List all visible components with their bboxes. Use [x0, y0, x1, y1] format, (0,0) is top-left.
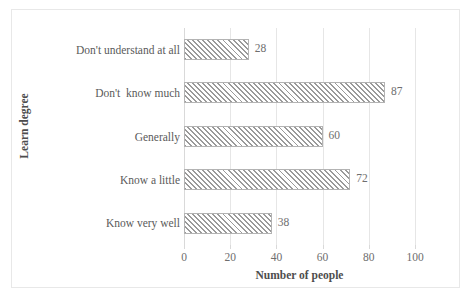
bar-row: 72	[184, 158, 415, 201]
x-axis-tick	[415, 245, 416, 249]
x-tick-label: 20	[224, 250, 236, 264]
chart-frame: 3872608728 Know very wellKnow a littleGe…	[11, 9, 460, 288]
category-axis-labels: Know very wellKnow a littleGenerallyDon'…	[16, 28, 180, 245]
x-axis-tick-labels: 020406080100	[12, 250, 461, 266]
bar-value-label: 60	[329, 128, 341, 142]
bar[interactable]	[184, 169, 350, 190]
x-axis-tick	[369, 245, 370, 249]
x-axis-tick	[323, 245, 324, 249]
category-label: Know very well	[20, 216, 180, 230]
category-label: Generally	[20, 130, 180, 144]
x-axis-title: Number of people	[184, 269, 415, 281]
category-label: Don't know much	[20, 86, 180, 100]
bar[interactable]	[184, 213, 272, 234]
bar-row: 38	[184, 202, 415, 245]
x-axis-tick	[276, 245, 277, 249]
category-label: Know a little	[20, 173, 180, 187]
x-tick-label: 40	[271, 250, 283, 264]
y-axis-title: Learn degree	[18, 71, 30, 181]
gridline	[415, 28, 416, 245]
x-axis-tick	[184, 245, 185, 249]
x-tick-label: 0	[181, 250, 187, 264]
bar[interactable]	[184, 126, 323, 147]
plot-area: 3872608728	[184, 28, 415, 245]
bar-value-label: 72	[356, 171, 368, 185]
bar-row: 28	[184, 28, 415, 71]
x-tick-label: 80	[363, 250, 375, 264]
x-tick-label: 100	[406, 250, 423, 264]
x-tick-label: 60	[317, 250, 329, 264]
category-label: Don't understand at all	[20, 43, 180, 57]
bar[interactable]	[184, 39, 249, 60]
bar-row: 60	[184, 115, 415, 158]
bar[interactable]	[184, 82, 385, 103]
bar-value-label: 28	[255, 41, 267, 55]
bar-row: 87	[184, 71, 415, 114]
bar-value-label: 38	[278, 215, 290, 229]
bar-value-label: 87	[391, 84, 403, 98]
x-axis-tick	[230, 245, 231, 249]
